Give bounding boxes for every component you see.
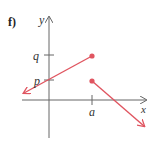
x-axis-label: x [141,104,146,115]
right-piece-start-dot [89,78,94,83]
left-piece-endpoint-dot [89,53,94,58]
tick-label-a: a [89,106,95,118]
right-piece-line [92,81,144,126]
tick-label-p: p [34,75,40,87]
graph-svg [0,0,148,145]
tick-label-q: q [33,50,39,62]
piecewise-graph-figure: f) y x q p a [0,0,148,145]
part-label: f) [8,16,16,28]
y-axis-label: y [39,14,44,26]
